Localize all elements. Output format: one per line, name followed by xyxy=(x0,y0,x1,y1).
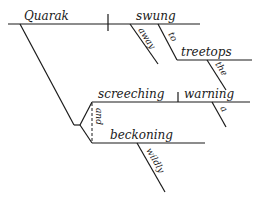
fork-lower-line xyxy=(80,125,92,143)
participle-object-word: warning xyxy=(184,87,234,101)
verb-word: swung xyxy=(136,9,176,23)
preposition-word: to xyxy=(166,30,179,43)
subject-word: Quarak xyxy=(24,9,69,23)
sentence-diagram: Quarak swung away to treetops the and sc… xyxy=(0,0,257,201)
first-participle-word: screeching xyxy=(98,87,165,101)
second-participle-word: beckoning xyxy=(110,128,173,142)
prepositional-object-word: treetops xyxy=(181,45,232,59)
fork-upper-line xyxy=(80,102,92,125)
preposition-slant-line xyxy=(158,24,177,60)
conjunction-word: and xyxy=(94,108,104,125)
participle-connector-line xyxy=(20,24,74,125)
object-article-word: a xyxy=(218,104,229,114)
